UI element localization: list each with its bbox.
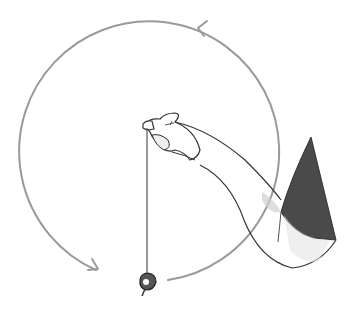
pendulum-illustration: Hand holding a pendulum on a string, wit… — [0, 0, 357, 332]
hand — [143, 113, 200, 160]
motion-path — [19, 21, 279, 280]
pendulum-weight — [140, 273, 156, 296]
